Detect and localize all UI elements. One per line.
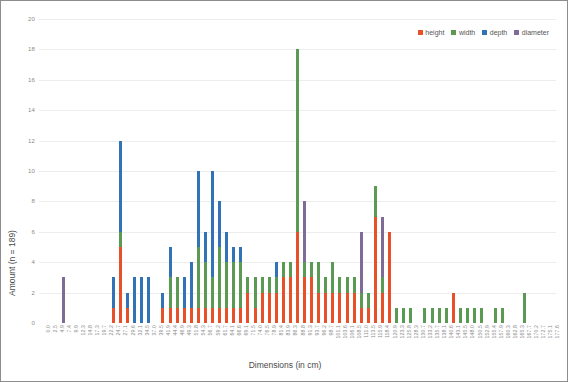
bar-column[interactable] xyxy=(374,186,377,323)
bar-column[interactable] xyxy=(423,308,426,323)
bar-segment-diameter[interactable] xyxy=(62,277,65,323)
bar-segment-height[interactable] xyxy=(338,293,341,323)
bar-segment-height[interactable] xyxy=(296,232,299,323)
bar-column[interactable] xyxy=(254,277,257,323)
bar-segment-depth[interactable] xyxy=(169,247,172,277)
bar-column[interactable] xyxy=(431,308,434,323)
bar-segment-depth[interactable] xyxy=(161,293,164,308)
bar-column[interactable] xyxy=(331,262,334,323)
bar-column[interactable] xyxy=(239,247,242,323)
bar-segment-depth[interactable] xyxy=(147,277,150,323)
bar-segment-width[interactable] xyxy=(459,308,462,323)
bar-column[interactable] xyxy=(395,308,398,323)
bar-segment-height[interactable] xyxy=(374,217,377,323)
bar-segment-width[interactable] xyxy=(324,277,327,292)
bar-segment-width[interactable] xyxy=(296,49,299,231)
bar-column[interactable] xyxy=(282,262,285,323)
bar-segment-height[interactable] xyxy=(346,293,349,323)
bar-column[interactable] xyxy=(388,232,391,323)
bar-segment-height[interactable] xyxy=(275,293,278,323)
bar-column[interactable] xyxy=(232,247,235,323)
bar-segment-depth[interactable] xyxy=(275,262,278,277)
bar-column[interactable] xyxy=(246,277,249,323)
legend-item-depth[interactable]: depth xyxy=(482,29,507,36)
bar-segment-width[interactable] xyxy=(289,262,292,277)
bar-segment-height[interactable] xyxy=(239,308,242,323)
bar-segment-width[interactable] xyxy=(246,277,249,292)
bar-segment-width[interactable] xyxy=(176,277,179,307)
bar-segment-depth[interactable] xyxy=(126,293,129,308)
bar-segment-depth[interactable] xyxy=(112,277,115,307)
bar-segment-width[interactable] xyxy=(395,308,398,323)
bar-segment-height[interactable] xyxy=(211,308,214,323)
legend-item-diameter[interactable]: diameter xyxy=(514,29,549,36)
bar-segment-depth[interactable] xyxy=(211,171,214,277)
bar-segment-height[interactable] xyxy=(282,277,285,323)
bar-segment-depth[interactable] xyxy=(232,247,235,262)
bar-segment-width[interactable] xyxy=(494,308,497,323)
bar-segment-width[interactable] xyxy=(331,262,334,292)
bar-segment-height[interactable] xyxy=(331,293,334,323)
bar-column[interactable] xyxy=(438,308,441,323)
bar-segment-width[interactable] xyxy=(268,277,271,292)
bar-segment-depth[interactable] xyxy=(197,171,200,247)
bar-segment-height[interactable] xyxy=(119,247,122,323)
bar-column[interactable] xyxy=(381,217,384,323)
bar-column[interactable] xyxy=(303,201,306,323)
bar-column[interactable] xyxy=(112,277,115,323)
bar-column[interactable] xyxy=(211,171,214,323)
bar-column[interactable] xyxy=(190,262,193,323)
bar-column[interactable] xyxy=(360,232,363,323)
bar-segment-width[interactable] xyxy=(317,262,320,292)
bar-segment-width[interactable] xyxy=(239,262,242,308)
bar-column[interactable] xyxy=(218,201,221,323)
bar-segment-width[interactable] xyxy=(367,293,370,308)
bar-segment-width[interactable] xyxy=(197,247,200,308)
bar-segment-width[interactable] xyxy=(402,308,405,323)
bar-column[interactable] xyxy=(523,293,526,323)
bar-column[interactable] xyxy=(119,141,122,323)
bar-column[interactable] xyxy=(161,293,164,323)
bar-segment-height[interactable] xyxy=(381,293,384,323)
bar-column[interactable] xyxy=(296,49,299,323)
bar-segment-height[interactable] xyxy=(183,308,186,323)
bar-segment-height[interactable] xyxy=(324,293,327,323)
bar-segment-depth[interactable] xyxy=(119,141,122,232)
bar-segment-height[interactable] xyxy=(246,293,249,323)
bar-segment-width[interactable] xyxy=(232,262,235,308)
bar-segment-width[interactable] xyxy=(261,277,264,292)
bar-segment-height[interactable] xyxy=(190,308,193,323)
bar-segment-height[interactable] xyxy=(176,308,179,323)
bar-segment-width[interactable] xyxy=(523,293,526,323)
bar-segment-width[interactable] xyxy=(211,277,214,307)
bar-segment-height[interactable] xyxy=(452,293,455,323)
bar-segment-width[interactable] xyxy=(473,308,476,323)
bar-segment-height[interactable] xyxy=(225,308,228,323)
bar-column[interactable] xyxy=(459,308,462,323)
bar-segment-depth[interactable] xyxy=(225,232,228,262)
bar-segment-height[interactable] xyxy=(388,232,391,323)
bar-column[interactable] xyxy=(268,277,271,323)
bar-column[interactable] xyxy=(402,308,405,323)
bar-column[interactable] xyxy=(353,277,356,323)
bar-segment-width[interactable] xyxy=(353,277,356,292)
bar-segment-height[interactable] xyxy=(204,308,207,323)
bar-segment-width[interactable] xyxy=(169,277,172,307)
bar-segment-height[interactable] xyxy=(112,308,115,323)
bar-column[interactable] xyxy=(338,277,341,323)
bar-segment-depth[interactable] xyxy=(183,277,186,307)
bar-segment-width[interactable] xyxy=(254,277,257,307)
bar-segment-diameter[interactable] xyxy=(360,232,363,293)
bar-segment-height[interactable] xyxy=(303,277,306,323)
bar-segment-height[interactable] xyxy=(289,277,292,323)
bar-segment-width[interactable] xyxy=(374,186,377,216)
bar-segment-width[interactable] xyxy=(409,308,412,323)
bar-segment-depth[interactable] xyxy=(140,277,143,323)
bar-column[interactable] xyxy=(324,277,327,323)
bar-column[interactable] xyxy=(133,277,136,323)
bar-column[interactable] xyxy=(225,232,228,323)
bar-segment-width[interactable] xyxy=(218,247,221,308)
bar-segment-height[interactable] xyxy=(353,293,356,323)
bar-segment-width[interactable] xyxy=(310,262,313,277)
bar-segment-height[interactable] xyxy=(197,308,200,323)
